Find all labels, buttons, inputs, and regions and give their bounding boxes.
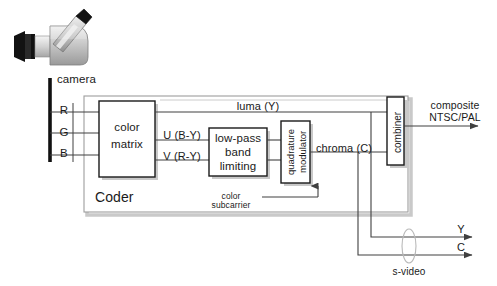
- input-label-g: G: [59, 126, 68, 139]
- output-label-y: Y: [457, 223, 464, 235]
- color-matrix-label-line1: color: [114, 121, 139, 134]
- signal-label-chroma: chroma (C): [316, 142, 372, 154]
- combiner-label: combiner: [392, 103, 403, 161]
- quad-mod-label-line1: quadrature: [286, 125, 296, 179]
- low-pass-label-line3: limiting: [220, 160, 257, 173]
- output-label-composite-line2: NTSC/PAL: [429, 112, 480, 124]
- low-pass-label-line1: low-pass: [215, 132, 261, 145]
- video-camera-icon: [14, 9, 92, 65]
- signal-label-v: V (R-Y): [163, 150, 200, 162]
- quad-mod-label-line2: modulator: [298, 125, 308, 179]
- s-video-bundle-icon: [402, 229, 416, 263]
- color-matrix-label-line2: matrix: [111, 138, 143, 151]
- s-video-label: s-video: [393, 266, 426, 277]
- input-label-r: R: [60, 104, 68, 117]
- signal-label-u: U (B-Y): [163, 129, 200, 141]
- camera-label: camera: [57, 73, 96, 86]
- color-subcarrier-label-line2: subcarrier: [212, 201, 251, 211]
- figure-container: camera R G B color matrix U (B-Y) V (R-Y…: [0, 0, 497, 286]
- low-pass-label-line2: band: [225, 146, 251, 159]
- signal-label-luma: luma (Y): [237, 100, 279, 112]
- input-label-b: B: [60, 147, 68, 160]
- output-label-c: C: [457, 241, 465, 253]
- coder-label: Coder: [95, 190, 134, 206]
- output-label-composite-line1: composite: [431, 100, 480, 112]
